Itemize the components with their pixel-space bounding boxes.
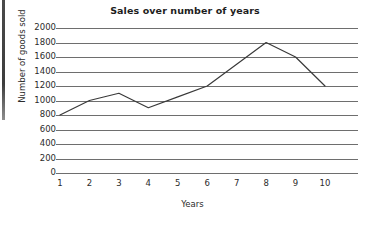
- x-axis-tick-label: 7: [222, 178, 252, 188]
- y-axis-tick-label: 1600: [0, 52, 56, 61]
- y-axis-tick-label: 1800: [0, 38, 56, 47]
- gridline: [60, 173, 358, 174]
- x-axis-tick-label: 4: [133, 178, 163, 188]
- y-axis-tick-label: 400: [0, 139, 56, 148]
- x-axis-tick-label: 6: [192, 178, 222, 188]
- y-axis-tick-label: 600: [0, 125, 56, 134]
- y-axis-tick-label: 0: [0, 168, 56, 177]
- chart-title: Sales over number of years: [0, 5, 370, 16]
- x-axis-tick-label: 9: [281, 178, 311, 188]
- series-line-sales: [60, 28, 358, 173]
- y-axis-tick-label: 1400: [0, 67, 56, 76]
- x-axis-tick-label: 10: [310, 178, 340, 188]
- chart-figure: Sales over number of years Number of goo…: [0, 0, 370, 225]
- x-axis-tick-label: 2: [74, 178, 104, 188]
- x-axis-tick-label: 5: [163, 178, 193, 188]
- plot-area: [60, 28, 358, 173]
- x-axis-label: Years: [60, 199, 325, 209]
- y-axis-tick-label: 200: [0, 154, 56, 163]
- y-axis-tick-label: 800: [0, 110, 56, 119]
- x-axis-tick-label: 3: [104, 178, 134, 188]
- y-axis-tick-label: 2000: [0, 23, 56, 32]
- x-axis-tick-label: 1: [45, 178, 75, 188]
- x-axis-tick-label: 8: [251, 178, 281, 188]
- y-axis-tick-label: 1000: [0, 96, 56, 105]
- y-axis-tick-label: 1200: [0, 81, 56, 90]
